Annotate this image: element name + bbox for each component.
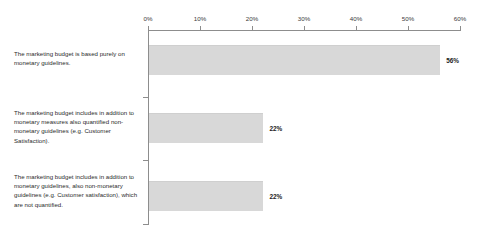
x-tick-4 bbox=[356, 26, 357, 31]
x-tick-label-1: 10% bbox=[194, 15, 206, 22]
category-label-1: The marketing budget includes in additio… bbox=[14, 108, 142, 145]
x-tick-0 bbox=[148, 26, 149, 31]
x-tick-3 bbox=[304, 26, 305, 31]
bar-value-label-1: 22% bbox=[269, 125, 282, 132]
x-tick-5 bbox=[408, 26, 409, 31]
bar-2 bbox=[149, 181, 263, 211]
category-label-2: The marketing budget includes in additio… bbox=[14, 172, 142, 209]
category-label-0: The marketing budget is based purely on … bbox=[14, 49, 142, 67]
bar-value-label-2: 22% bbox=[269, 193, 282, 200]
bar-1 bbox=[149, 113, 263, 143]
x-tick-label-2: 20% bbox=[246, 15, 258, 22]
bar-chart: The marketing budget is based purely on … bbox=[0, 0, 480, 237]
y-tick-0 bbox=[143, 97, 149, 98]
x-tick-2 bbox=[252, 26, 253, 31]
x-tick-label-0: 0% bbox=[144, 15, 153, 22]
x-tick-6 bbox=[460, 26, 461, 31]
x-tick-1 bbox=[200, 26, 201, 31]
x-tick-label-6: 60% bbox=[454, 15, 466, 22]
x-tick-label-5: 50% bbox=[402, 15, 414, 22]
y-tick-1 bbox=[143, 160, 149, 161]
x-tick-label-4: 40% bbox=[350, 15, 362, 22]
bar-value-label-0: 56% bbox=[446, 57, 459, 64]
y-tick-2 bbox=[143, 224, 149, 225]
bar-0 bbox=[149, 45, 440, 75]
x-tick-label-3: 30% bbox=[298, 15, 310, 22]
